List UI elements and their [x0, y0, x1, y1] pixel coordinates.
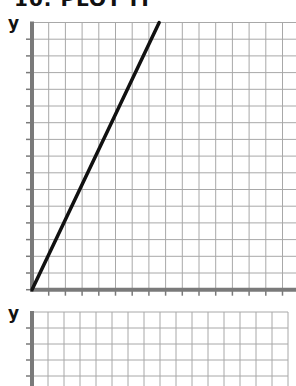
chart1-grid	[0, 0, 296, 300]
chart2-grid	[0, 300, 296, 386]
